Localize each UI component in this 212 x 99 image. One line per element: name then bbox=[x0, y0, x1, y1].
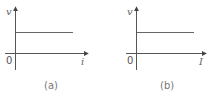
diagram: v 0 i (a) v 0 I (b) bbox=[0, 0, 212, 99]
y-axis-label: v bbox=[127, 6, 133, 17]
origin-label: 0 bbox=[127, 55, 133, 66]
panel-caption: (a) bbox=[44, 80, 58, 91]
panel-a: v 0 i (a) bbox=[5, 6, 88, 91]
panel-b: v 0 I (b) bbox=[126, 6, 206, 91]
x-axis-label: i bbox=[81, 56, 84, 67]
origin-label: 0 bbox=[6, 55, 12, 66]
panel-caption: (b) bbox=[160, 80, 174, 91]
x-axis-label: I bbox=[198, 56, 204, 67]
y-axis-label: v bbox=[6, 6, 12, 17]
